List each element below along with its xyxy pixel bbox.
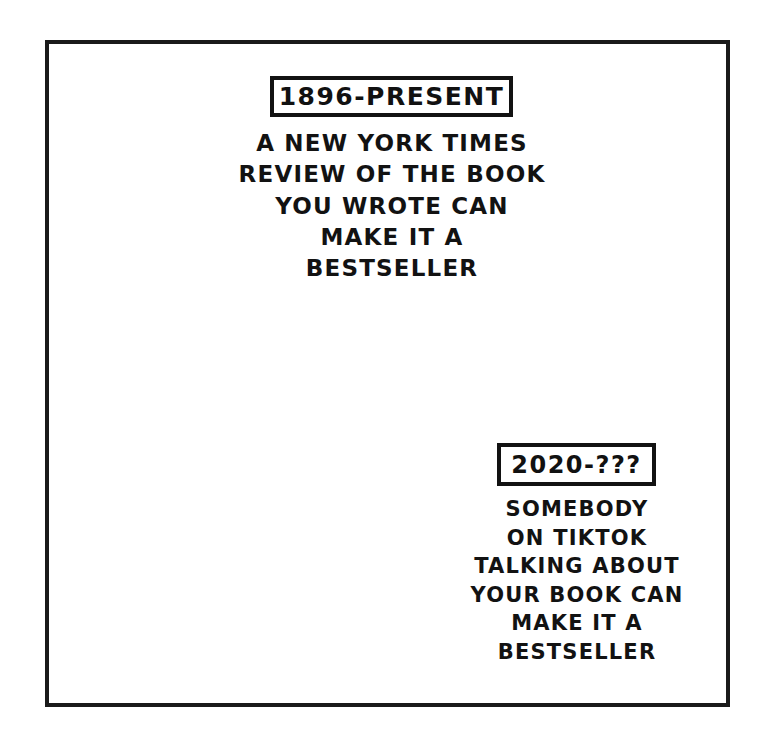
caption-bottom-line: TALKING ABOUT: [466, 552, 688, 581]
caption-top-line: REVIEW OF THE BOOK: [236, 159, 548, 190]
caption-top: A NEW YORK TIMES REVIEW OF THE BOOK YOU …: [236, 128, 548, 284]
caption-bottom-line: MAKE IT A: [466, 609, 688, 638]
caption-bottom-line: SOMEBODY: [466, 495, 688, 524]
caption-bottom-line: ON TIKTOK: [466, 524, 688, 553]
date-range-box-bottom: 2020-???: [497, 443, 656, 486]
date-range-box-top: 1896-PRESENT: [270, 76, 513, 117]
caption-bottom-line: BESTSELLER: [466, 638, 688, 667]
date-range-label-bottom: 2020-???: [511, 451, 642, 479]
caption-bottom: SOMEBODY ON TIKTOK TALKING ABOUT YOUR BO…: [466, 495, 688, 666]
caption-top-line: A NEW YORK TIMES: [236, 128, 548, 159]
caption-top-line: MAKE IT A: [236, 222, 548, 253]
caption-top-line: YOU WROTE CAN: [236, 191, 548, 222]
caption-bottom-line: YOUR BOOK CAN: [466, 581, 688, 610]
caption-top-line: BESTSELLER: [236, 253, 548, 284]
date-range-label-top: 1896-PRESENT: [279, 82, 505, 111]
